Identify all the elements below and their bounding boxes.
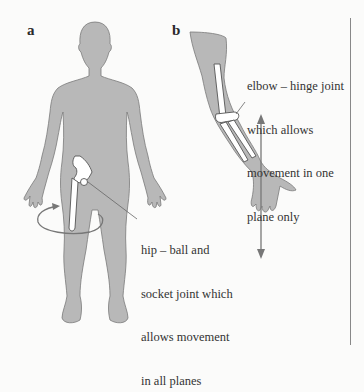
hip-caption-line: hip – ball and xyxy=(141,243,233,258)
hip-caption-line: socket joint which xyxy=(141,287,233,302)
elbow-caption-line: movement in one xyxy=(247,166,344,181)
elbow-caption: elbow – hinge joint which allows movemen… xyxy=(247,50,344,239)
elbow-caption-line: which allows xyxy=(247,123,344,138)
hip-caption-line: in all planes xyxy=(141,374,233,389)
elbow-caption-line: plane only xyxy=(247,210,344,225)
column-divider xyxy=(350,18,351,345)
hip-caption: hip – ball and socket joint which allows… xyxy=(141,214,233,392)
elbow-caption-line: elbow – hinge joint xyxy=(247,79,344,94)
elbow-leader-line xyxy=(236,102,245,114)
hip-caption-line: allows movement xyxy=(141,330,233,345)
